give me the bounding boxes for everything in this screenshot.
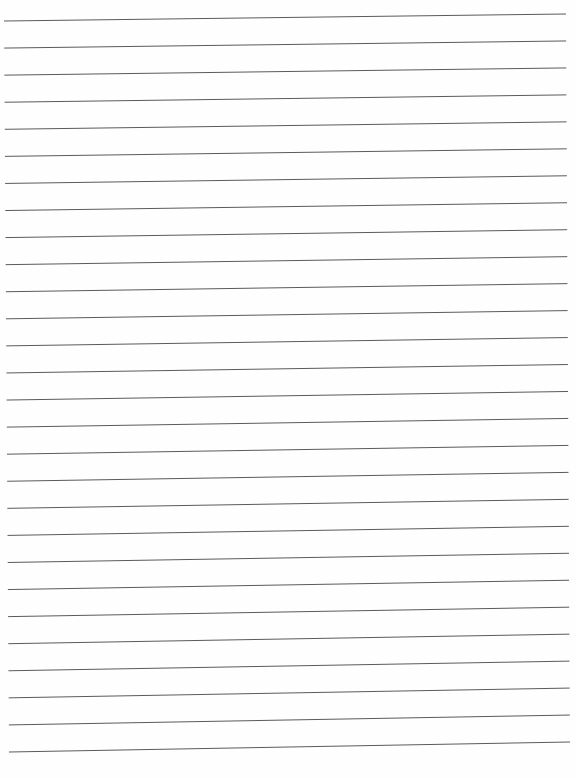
lined-paper-sheet [0, 0, 576, 778]
ruled-line [5, 176, 567, 184]
ruled-line [5, 122, 567, 129]
ruled-line [5, 95, 567, 102]
ruled-line [4, 68, 566, 75]
ruled-line [8, 661, 569, 671]
ruled-lines [0, 0, 576, 778]
ruled-line [8, 580, 569, 589]
ruled-line [4, 14, 566, 21]
ruled-line [9, 742, 570, 752]
ruled-line [7, 499, 568, 508]
ruled-line [4, 41, 566, 48]
ruled-line [7, 445, 568, 454]
ruled-line [6, 257, 568, 265]
ruled-line [8, 526, 569, 535]
ruled-line [5, 203, 567, 211]
ruled-line [8, 607, 569, 616]
ruled-line [6, 338, 568, 346]
ruled-line [6, 284, 568, 292]
ruled-line [5, 149, 567, 157]
ruled-line [9, 715, 570, 725]
ruled-line [6, 365, 568, 373]
ruled-line [7, 418, 568, 427]
ruled-line [9, 688, 570, 698]
ruled-line [8, 553, 569, 562]
ruled-line [5, 230, 567, 238]
ruled-line [6, 311, 568, 319]
ruled-line [8, 634, 569, 644]
ruled-line [7, 391, 568, 400]
ruled-line [7, 472, 568, 481]
